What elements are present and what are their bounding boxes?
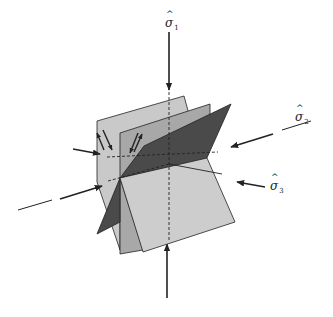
sigma2-right-arrow: [231, 134, 273, 147]
sigma2-label: ^σ2: [295, 111, 309, 126]
sigma3-left-arrow: [60, 186, 102, 199]
sigma3-right-arrow: [237, 182, 265, 187]
sigma3-left-tail: [18, 200, 52, 210]
sigma1-label: ^σ1: [165, 17, 179, 32]
stress-fault-plane-diagram: [0, 0, 333, 317]
sigma3-label: ^σ3: [270, 180, 284, 195]
sigma2-left-arrow: [73, 149, 100, 154]
